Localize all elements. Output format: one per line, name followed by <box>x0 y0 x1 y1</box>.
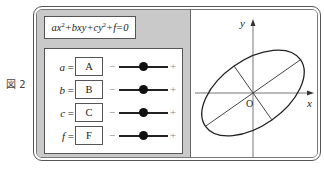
increase-f-button[interactable]: + <box>170 127 176 143</box>
decrease-a-button[interactable]: − <box>109 58 115 74</box>
param-label-b: b = <box>48 82 74 98</box>
figure-label: 図 2 <box>6 76 26 91</box>
param-row-b: b = B − + <box>45 80 182 100</box>
parameter-controls: a = A − + b = B − + c = C <box>44 48 183 154</box>
decrease-b-button[interactable]: − <box>109 81 115 97</box>
param-label-c: c = <box>48 105 74 121</box>
param-input-f[interactable]: F <box>75 126 103 145</box>
equation-term-1: ax <box>52 22 62 33</box>
increase-c-button[interactable]: + <box>170 104 176 120</box>
slider-knob-a[interactable] <box>139 62 148 71</box>
increase-a-button[interactable]: + <box>170 58 176 74</box>
slider-knob-b[interactable] <box>139 85 148 94</box>
param-row-c: c = C − + <box>45 103 182 123</box>
app-frame-inner: ax2+bxy+cy2+f=0 a = A − + b = B − <box>36 9 318 158</box>
slider-knob-f[interactable] <box>139 131 148 140</box>
decrease-c-button[interactable]: − <box>109 104 115 120</box>
x-axis-arrow-icon <box>307 91 314 96</box>
x-axis-label: x <box>306 97 312 109</box>
y-axis-label: y <box>239 17 245 29</box>
equation-term-3: +f=0 <box>106 22 128 33</box>
equation-box: ax2+bxy+cy2+f=0 <box>44 16 136 39</box>
decrease-f-button[interactable]: − <box>109 127 115 143</box>
graph-panel: x y O <box>191 10 317 157</box>
control-panel: ax2+bxy+cy2+f=0 a = A − + b = B − <box>37 10 191 157</box>
param-row-a: a = A − + <box>45 57 182 77</box>
app-frame: ax2+bxy+cy2+f=0 a = A − + b = B − <box>33 6 321 161</box>
equation-term-2: +bxy+cy <box>65 22 103 33</box>
y-axis-arrow-icon <box>251 19 256 26</box>
origin-label: O <box>246 98 253 109</box>
increase-b-button[interactable]: + <box>170 81 176 97</box>
param-row-f: f = F − + <box>45 126 182 146</box>
param-input-b[interactable]: B <box>75 80 103 99</box>
param-label-f: f = <box>48 128 74 144</box>
param-input-a[interactable]: A <box>75 57 103 76</box>
ellipse-graph: x y O <box>191 10 318 158</box>
slider-knob-c[interactable] <box>139 108 148 117</box>
param-input-c[interactable]: C <box>75 103 103 122</box>
param-label-a: a = <box>48 59 74 75</box>
